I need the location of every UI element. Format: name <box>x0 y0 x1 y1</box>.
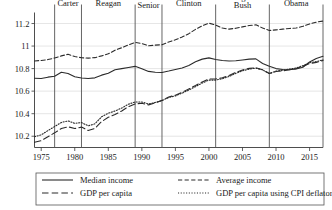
series-line <box>35 60 324 142</box>
x-tick-label: 2010 <box>268 152 285 162</box>
president-label: Bush <box>234 0 252 10</box>
y-axis-tick-labels: 10.210.410.610.81111.2 <box>15 19 31 142</box>
x-tick-label: 1975 <box>33 152 50 162</box>
legend-label: GDP per capita using CPI deflator <box>216 188 332 198</box>
gridlines <box>35 24 324 137</box>
series-line <box>35 56 324 78</box>
y-tick-label: 10.4 <box>15 109 31 119</box>
chart-legend: Median incomeAverage incomeGDP per capit… <box>36 173 332 205</box>
x-tick-label: 2000 <box>200 152 217 162</box>
y-tick-label: 11 <box>21 41 29 51</box>
income-vs-gdp-line-chart: CarterReaganBushSeniorClintonGeorge W.Bu… <box>0 0 332 210</box>
x-tick-label: 2005 <box>234 152 251 162</box>
series-line <box>35 21 324 61</box>
president-label: Clinton <box>176 0 202 8</box>
president-label: Carter <box>57 0 78 8</box>
chart-container: CarterReaganBushSeniorClintonGeorge W.Bu… <box>0 0 332 210</box>
legend-label: GDP per capita <box>80 188 132 198</box>
legend-label: Average income <box>216 175 272 185</box>
axes <box>32 13 324 152</box>
president-label: Reagan <box>96 0 122 8</box>
y-tick-label: 11.2 <box>15 19 30 29</box>
x-axis-tick-labels: 197519801985199019952000200520102015 <box>33 152 318 162</box>
y-tick-label: 10.2 <box>15 131 30 141</box>
legend-label: Median income <box>80 175 133 185</box>
president-label: Senior <box>137 0 159 10</box>
president-labels: CarterReaganBushSeniorClintonGeorge W.Bu… <box>57 0 308 10</box>
president-dividers <box>55 5 323 148</box>
x-tick-label: 1995 <box>167 152 184 162</box>
x-tick-label: 1980 <box>66 152 83 162</box>
president-label: Obama <box>284 0 309 8</box>
x-tick-label: 1985 <box>100 152 117 162</box>
y-tick-label: 10.8 <box>15 64 30 74</box>
x-tick-label: 1990 <box>133 152 150 162</box>
y-tick-label: 10.6 <box>15 86 30 96</box>
x-tick-label: 2015 <box>301 152 318 162</box>
data-series <box>35 21 324 142</box>
